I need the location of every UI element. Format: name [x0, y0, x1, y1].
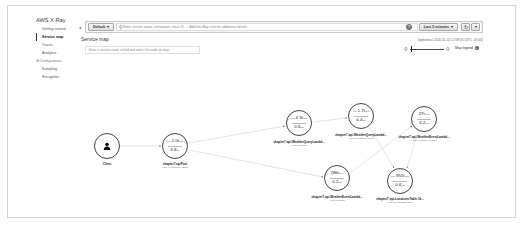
chevron-down-icon: ▾: [107, 25, 109, 29]
zoom-in-icon[interactable]: ⚲: [446, 46, 450, 52]
group-dropdown-button[interactable]: Default ▾: [88, 23, 114, 31]
node-weather-query-function[interactable]: avg 1.7t/min 0.4ms: [348, 103, 374, 129]
node-locations-table[interactable]: avg 951t/min 0.6ms: [387, 168, 413, 194]
node-metric-latency: 0.2ms: [332, 179, 341, 186]
zoom-slider-track: [410, 49, 444, 50]
sidebar-item-analytics[interactable]: Analytics: [36, 49, 76, 57]
node-filter-box: [85, 46, 200, 54]
sidebar-item-encryption[interactable]: Encryption: [36, 73, 76, 81]
sidebar-item-service-map[interactable]: Service map: [36, 33, 76, 41]
node-type-weather-event-lambda: AWS::Lambda: [302, 199, 372, 202]
sidebar-item-traces[interactable]: Traces: [36, 41, 76, 49]
node-metric-latency: 0.6ms: [294, 124, 303, 131]
node-metric-rate: 286t/min: [330, 170, 343, 177]
node-metric-latency: 0.4ms: [356, 117, 365, 124]
node-type-weather-query-function: AWS::Lambda::Function: [326, 137, 396, 140]
node-metric-rate: avg 1.7t/min: [353, 108, 370, 115]
node-metric-latency: 0.6ms: [395, 182, 404, 189]
node-weather-query-lambda[interactable]: avg 4.3t/min 0.6ms: [286, 110, 312, 136]
search-box: ⚲ ?: [116, 23, 418, 31]
group-label: Default: [93, 25, 105, 29]
chevron-down-icon: ▾: [475, 25, 477, 29]
plus-icon: +: [475, 46, 479, 50]
node-type-locations-table: AWS::DynamoDB::Table: [365, 201, 435, 204]
node-weather-event-lambda[interactable]: 286t/min 0.2ms: [324, 165, 350, 191]
chevron-down-icon: ▾: [451, 25, 453, 29]
node-metric-rate: 27t/min: [419, 111, 430, 118]
refresh-button[interactable]: ↻: [461, 23, 470, 31]
zoom-controls: ⚲ ⚲: [404, 46, 450, 52]
sidebar-collapse-icon[interactable]: ◂: [79, 25, 81, 30]
node-type-weather-query-lambda: AWS::Lambda: [264, 144, 334, 147]
node-type-api-gateway: AWS::ApiGateway::Stage: [140, 166, 210, 169]
node-metric-rate: avg 4.3t/min: [291, 115, 308, 122]
refresh-icon: ↻: [464, 25, 468, 30]
updated-timestamp: Updated at 2020-01-02 12:58:05 (UTC -05:…: [417, 38, 483, 42]
node-metric-rate: avg 951t/min: [391, 173, 409, 180]
node-metric-rate: avg 2.0t/min: [167, 138, 184, 145]
map-legend-toggle[interactable]: Map legend +: [455, 46, 479, 50]
sidebar-section-configuration[interactable]: ⊟ Configuration: [36, 57, 76, 65]
map-legend-label: Map legend: [455, 46, 473, 50]
sidebar-item-sampling[interactable]: Sampling: [36, 65, 76, 73]
node-type-weather-event-function: AWS::Lambda::Function: [389, 139, 459, 142]
time-range-label: Last 5 minutes: [424, 25, 449, 29]
zoom-out-icon[interactable]: ⚲: [404, 46, 408, 52]
refresh-options-button[interactable]: ▾: [471, 23, 480, 31]
sidebar: AWS X-Ray Getting started Service map Tr…: [36, 17, 76, 81]
node-client[interactable]: [94, 133, 120, 159]
help-icon[interactable]: ?: [406, 24, 412, 30]
zoom-slider[interactable]: [410, 46, 444, 52]
sidebar-item-getting-started[interactable]: Getting started: [36, 25, 76, 33]
node-metric-latency: 0.2ms: [419, 120, 428, 127]
search-input[interactable]: [123, 25, 403, 29]
user-icon: [103, 142, 111, 151]
node-filter-input[interactable]: [89, 48, 196, 52]
node-weather-event-function[interactable]: 27t/min 0.2ms: [411, 106, 437, 132]
toolbar: Default ▾ ⚲ ? Last 5 minutes ▾ ↻ ▾: [85, 21, 483, 33]
node-api-gateway[interactable]: avg 2.0t/min 3.8ms: [162, 133, 188, 159]
node-label-client: Client: [72, 162, 142, 166]
node-metric-latency: 3.8ms: [170, 147, 179, 154]
zoom-slider-thumb[interactable]: [411, 46, 412, 52]
sidebar-title: AWS X-Ray: [36, 17, 76, 23]
time-range-dropdown[interactable]: Last 5 minutes ▾: [419, 23, 458, 31]
page-title: Service map: [81, 36, 109, 42]
